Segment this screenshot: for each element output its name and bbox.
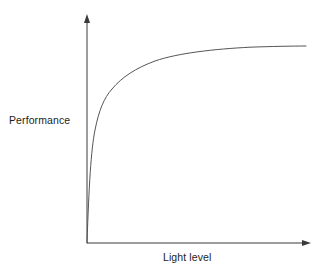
chart-figure: Performance Light level — [0, 0, 324, 278]
x-axis-arrowhead — [302, 240, 311, 246]
y-axis-arrowhead — [84, 14, 90, 23]
plot-area — [0, 0, 324, 278]
x-axis-label: Light level — [163, 252, 211, 264]
performance-curve — [87, 46, 306, 243]
y-axis-label: Performance — [9, 115, 70, 127]
